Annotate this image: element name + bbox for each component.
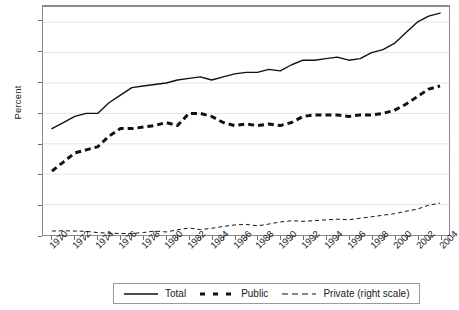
y-tick-mark xyxy=(38,82,42,83)
y-tick-mark xyxy=(38,174,42,175)
legend-label: Public xyxy=(241,288,268,299)
plot-area xyxy=(42,5,450,236)
series-line-total xyxy=(52,13,440,129)
y-tick-mark xyxy=(38,144,42,145)
legend-entry: Total xyxy=(123,288,186,299)
legend-entry: Private (right scale) xyxy=(281,288,409,299)
legend-label: Total xyxy=(165,288,186,299)
y-tick-mark xyxy=(38,20,42,21)
legend-swatch-thin-dashed xyxy=(281,289,317,299)
y-tick-mark xyxy=(38,113,42,114)
legend-label: Private (right scale) xyxy=(323,288,409,299)
legend-entry: Public xyxy=(199,288,268,299)
y-tick-mark xyxy=(38,236,42,237)
legend-swatch-thick-dashed xyxy=(199,289,235,299)
chart-legend: TotalPublicPrivate (right scale) xyxy=(113,283,420,304)
series-line-public xyxy=(52,86,440,171)
series-layer xyxy=(43,7,449,235)
y-axis-title: Percent xyxy=(12,43,23,163)
y-tick-mark xyxy=(38,51,42,52)
chart-figure: Percent 8.57.56.55.54.53.52.51.5 1970197… xyxy=(0,0,459,310)
y-tick-mark xyxy=(38,205,42,206)
legend-swatch-solid xyxy=(123,289,159,299)
